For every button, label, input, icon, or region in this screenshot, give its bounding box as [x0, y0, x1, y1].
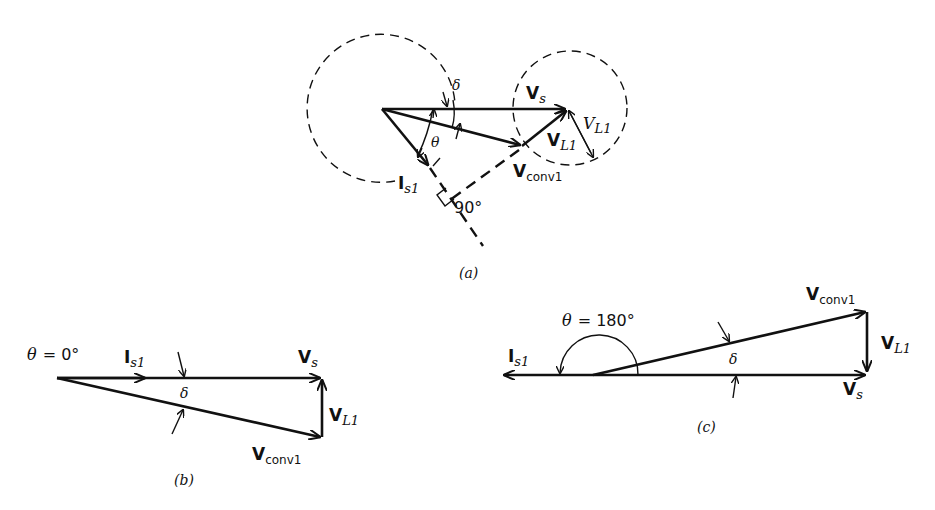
label-vl1-b: VL1 — [329, 405, 359, 428]
perpendicular-dashed — [450, 150, 519, 200]
label-is1-b: Is1 — [124, 347, 145, 370]
caption-a: (a) — [459, 265, 478, 281]
delta-pointer-top-c — [718, 322, 729, 341]
label-delta-a: δ — [452, 77, 460, 93]
delta-pointer-bottom-b — [172, 410, 183, 434]
label-vconv1-c: Vconv1 — [806, 284, 855, 307]
caption-b: (b) — [174, 472, 194, 488]
diagram-b: θ= 0° Is1 δ Vs VL1 Vconv1 (b) — [27, 345, 359, 488]
vconv1-vector — [382, 109, 520, 145]
label-theta-a: θ — [431, 134, 440, 150]
label-delta-b: δ — [180, 385, 188, 401]
label-vconv1-a: Vconv1 — [513, 161, 562, 184]
label-delta-c: δ — [729, 351, 737, 367]
theta-tick — [433, 158, 440, 166]
label-theta-eq-c: θ= 180° — [562, 311, 635, 330]
delta-pointer-bottom-c — [733, 377, 736, 398]
diagram-a: δ θ Vs VL1 VL1 Vconv1 Is1 90° (a) — [307, 34, 627, 281]
delta-arc — [452, 100, 454, 128]
label-theta-eq-b: θ= 0° — [27, 345, 79, 364]
label-vl1-bold-a: VL1 — [547, 130, 577, 153]
label-vs-a: Vs — [526, 83, 546, 106]
label-is1-a: Is1 — [398, 173, 419, 196]
label-vs-c: Vs — [843, 379, 863, 402]
theta-arc-c — [560, 335, 638, 375]
label-vl1-c: VL1 — [881, 333, 911, 356]
delta-pointer-top-b — [178, 352, 184, 376]
delta-pointer-bottom — [456, 124, 460, 139]
diagram-c: θ= 180° Is1 δ Vconv1 VL1 Vs (c) — [504, 284, 911, 435]
theta-arrow-top — [433, 110, 434, 118]
label-vconv1-b: Vconv1 — [252, 444, 301, 467]
delta-pointer-top — [443, 92, 447, 106]
phasor-diagram-figure: δ θ Vs VL1 VL1 Vconv1 Is1 90° (a) θ — [0, 0, 935, 510]
label-is1-c: Is1 — [508, 346, 529, 369]
label-vl1-italic-a: VL1 — [583, 114, 611, 136]
vconv1-vector-b — [57, 378, 320, 437]
is1-vector — [382, 109, 428, 165]
label-90deg: 90° — [454, 198, 482, 217]
caption-c: (c) — [697, 419, 716, 435]
label-vs-b: Vs — [298, 347, 318, 370]
